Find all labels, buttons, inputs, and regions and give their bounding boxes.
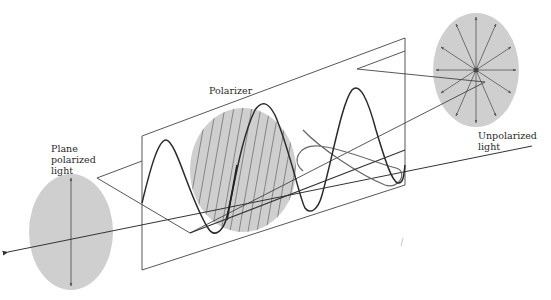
polarizer-label: Polarizer (209, 85, 252, 96)
stray-mark (401, 238, 403, 246)
unpolarized-light-label: Unpolarized light (478, 130, 537, 152)
plane-polarized-disc (29, 174, 113, 290)
unpolarized-disc (433, 13, 519, 127)
plane-polarized-light-label: Plane polarized light (51, 143, 96, 176)
polarizer-disc (180, 90, 318, 260)
